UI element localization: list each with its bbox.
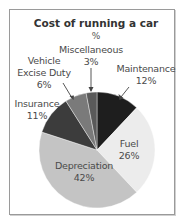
label-fuel: Fuel — [120, 138, 139, 149]
label-maintenance-pct: 12% — [136, 75, 157, 86]
label-maintenance: Maintenance — [117, 63, 176, 74]
label-fuel-pct: 26% — [119, 150, 140, 161]
label-miscellaneous: Miscellaneous — [59, 44, 123, 55]
label-miscellaneous-pct: 3% — [84, 56, 99, 67]
chart-title: Cost of running a car — [34, 17, 159, 29]
label-depreciation-pct: 42% — [74, 172, 95, 183]
chart-unit: % — [92, 31, 101, 41]
arrowhead-miscellaneous — [89, 87, 94, 92]
label-insurance: Insurance — [15, 98, 60, 109]
arrow-maintenance — [121, 87, 129, 97]
label-depreciation: Depreciation — [55, 160, 113, 171]
label-ved-line2: Excise Duty — [17, 67, 71, 78]
label-ved-line1: Vehicle — [28, 55, 61, 66]
arrow-ved — [63, 83, 72, 98]
pie-chart: Cost of running a car % Miscellaneous 3%… — [0, 0, 182, 221]
label-insurance-pct: 11% — [27, 110, 48, 121]
label-ved-pct: 6% — [37, 79, 52, 90]
